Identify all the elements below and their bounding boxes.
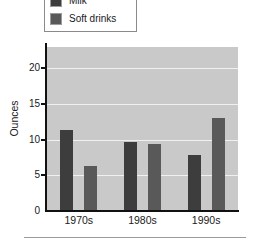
bar-1970s-milk <box>60 130 73 211</box>
y-axis-tick-labels: 05101520 <box>0 0 40 247</box>
y-tick-label: 20 <box>2 63 40 73</box>
bar-1970s-soft-drinks <box>84 166 97 211</box>
y-tick-label: 5 <box>2 170 40 180</box>
y-tick-mark <box>41 67 46 69</box>
bar-chart: 05101520 Ounces 1970s1980s1990s <box>0 0 254 247</box>
y-tick-label: 0 <box>2 206 40 216</box>
x-axis-line <box>45 210 239 212</box>
bar-1990s-milk <box>188 155 201 211</box>
gridline <box>47 68 238 69</box>
plot-area <box>47 47 238 211</box>
y-tick-mark <box>41 139 46 141</box>
bar-1980s-soft-drinks <box>148 144 161 211</box>
bar-1980s-milk <box>124 142 137 211</box>
gridline <box>47 104 238 105</box>
x-tick-label: 1970s <box>47 215 111 226</box>
bottom-divider <box>24 237 246 238</box>
gridline <box>47 175 238 176</box>
bar-1990s-soft-drinks <box>212 118 225 211</box>
x-tick-label: 1980s <box>111 215 175 226</box>
y-tick-mark <box>41 174 46 176</box>
y-axis-title: Ounces <box>9 93 20 145</box>
gridline <box>47 140 238 141</box>
x-tick-label: 1990s <box>174 215 238 226</box>
y-tick-mark <box>41 103 46 105</box>
